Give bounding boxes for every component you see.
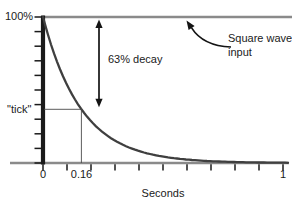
square-wave-annotation-label: Square wave input: [228, 31, 292, 59]
square-wave-annotation-line2: input: [228, 45, 292, 59]
y-axis-ticks: [35, 17, 42, 163]
arrow-up-head: [95, 20, 102, 29]
x-tick-label-0: 0: [35, 168, 51, 181]
callout-arrow-head: [187, 21, 195, 30]
square-wave-callout-arrow: [187, 21, 232, 48]
x-axis-title: Seconds: [117, 187, 209, 200]
tick-level-label: "tick": [7, 103, 31, 116]
rc-decay-figure: 100% "tick" 63% decay Square wave input …: [0, 0, 292, 204]
square-wave-annotation-line1: Square wave: [228, 31, 292, 45]
y-max-label: 100%: [5, 10, 33, 23]
decay-double-arrow: [95, 20, 102, 108]
arrow-down-head: [95, 99, 102, 108]
decay-annotation-label: 63% decay: [108, 53, 162, 66]
x-tick-label-1: 1: [275, 168, 291, 181]
x-tick-label-016: 0.16: [67, 168, 96, 181]
